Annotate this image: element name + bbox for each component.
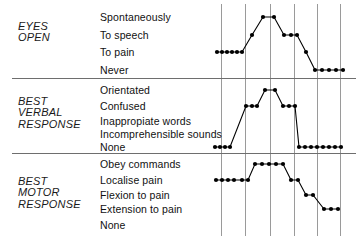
eyes-open-trace-point xyxy=(295,33,299,37)
verbal-response-trace-point xyxy=(255,104,259,108)
glasgow-coma-scale-chart: EYES OPENSpontaneouslyTo speechTo painNe… xyxy=(0,0,362,242)
motor-response-trace-point xyxy=(232,178,236,182)
response-level-label: Never xyxy=(100,64,129,76)
verbal-response-trace-point xyxy=(297,145,301,149)
verbal-response-trace-point xyxy=(309,145,313,149)
eyes-open-trace-point xyxy=(272,15,276,19)
motor-response-trace-point xyxy=(329,207,333,211)
response-level-label: Confused xyxy=(100,100,146,112)
response-level-label: None xyxy=(100,219,126,231)
motor-response-trace-point xyxy=(260,162,264,166)
motor-response-trace-point xyxy=(274,162,278,166)
gridline-vertical-2 xyxy=(245,4,246,236)
motor-response-trace-point xyxy=(226,178,230,182)
motor-response-trace-point xyxy=(240,178,244,182)
eyes-open-trace-point xyxy=(320,68,324,72)
verbal-response-trace-point xyxy=(250,104,254,108)
motor-response-trace-point xyxy=(253,162,257,166)
eyes-open-trace-point xyxy=(282,33,286,37)
gridline-vertical-6 xyxy=(340,4,341,236)
eyes-open-trace-point xyxy=(235,50,239,54)
section-separator-2 xyxy=(12,153,356,154)
response-level-label: Flexion to pain xyxy=(100,189,170,201)
eyes-open-trace-point xyxy=(341,68,345,72)
verbal-response-trace-point xyxy=(213,145,217,149)
verbal-response-trace-point xyxy=(273,88,277,92)
eyes-open-trace-point xyxy=(215,50,219,54)
eyes-open-trace-point xyxy=(304,50,308,54)
response-level-label: Obey commands xyxy=(100,158,181,170)
verbal-response-trace-point xyxy=(287,104,291,108)
eyes-open-trace-point xyxy=(261,15,265,19)
response-level-label: To speech xyxy=(100,29,149,41)
verbal-response-trace-point xyxy=(228,145,232,149)
eyes-open-trace-point xyxy=(327,68,331,72)
motor-response-trace-point xyxy=(311,193,315,197)
response-level-label: To pain xyxy=(100,46,135,58)
motor-response-trace-point xyxy=(296,178,300,182)
gridline-vertical-5 xyxy=(317,4,318,236)
motor-response-trace-line xyxy=(216,164,338,209)
verbal-response-trace-point xyxy=(327,145,331,149)
gridline-vertical-3 xyxy=(270,4,271,236)
eyes-open-trace-point xyxy=(334,68,338,72)
response-level-label: Incomprehensible sounds xyxy=(100,128,222,140)
eyes-open-trace-point xyxy=(250,33,254,37)
response-level-label: Inappropiate words xyxy=(100,115,191,127)
eyes-open-trace-point xyxy=(240,50,244,54)
eyes-open-trace-point xyxy=(225,50,229,54)
section-separator-1 xyxy=(12,78,356,79)
eyes-open-trace-point xyxy=(289,33,293,37)
motor-response-trace-point xyxy=(322,207,326,211)
category-label-eyes-open: EYES OPEN xyxy=(18,21,50,44)
verbal-response-trace-line xyxy=(215,90,341,147)
motor-response-trace-point xyxy=(304,193,308,197)
response-level-label: Spontaneously xyxy=(100,11,171,23)
response-level-label: None xyxy=(100,141,126,153)
eyes-open-trace-point xyxy=(230,50,234,54)
gridline-vertical-4 xyxy=(294,4,295,236)
verbal-response-trace-point xyxy=(321,145,325,149)
response-level-label: Orientated xyxy=(100,84,150,96)
verbal-response-trace-point xyxy=(303,145,307,149)
motor-response-trace-point xyxy=(246,178,250,182)
verbal-response-trace-point xyxy=(281,104,285,108)
category-label-best-motor-response: BEST MOTOR RESPONSE xyxy=(18,176,81,211)
motor-response-trace-point xyxy=(289,178,293,182)
eyes-open-trace-line xyxy=(217,17,343,70)
motor-response-trace-point xyxy=(281,162,285,166)
response-level-label: Localise pain xyxy=(100,174,163,186)
verbal-response-trace-point xyxy=(223,145,227,149)
verbal-response-trace-point xyxy=(333,145,337,149)
gridline-vertical-1 xyxy=(221,4,222,236)
verbal-response-trace-point xyxy=(263,88,267,92)
motor-response-trace-point xyxy=(214,178,218,182)
category-label-best-verbal-response: BEST VERBAL RESPONSE xyxy=(18,96,81,131)
response-level-label: Extension to pain xyxy=(100,203,182,215)
